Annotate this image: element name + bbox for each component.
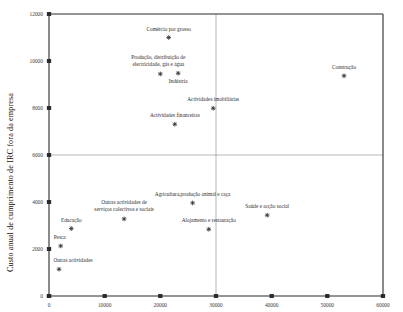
data-point-1 <box>158 72 163 77</box>
x-tick-mark-60000 <box>381 295 384 298</box>
x-tick-mark-10000 <box>103 295 106 298</box>
y-tick-mark-10000 <box>47 60 50 63</box>
data-point-0 <box>166 35 171 40</box>
data-points <box>57 35 347 271</box>
data-point-labels: Comércio por grossoProdução, distribuiçã… <box>53 26 356 264</box>
data-point-11 <box>58 244 63 249</box>
reference-lines <box>49 14 383 296</box>
data-point-label-11: Pesca <box>54 234 67 240</box>
y-tick-label-12000: 12000 <box>30 11 44 17</box>
data-point-label-7: Saúde e acção social <box>245 203 289 209</box>
y-tick-label-4000: 4000 <box>32 199 43 205</box>
x-tick-mark-50000 <box>326 295 329 298</box>
x-tick-mark-0 <box>47 295 50 298</box>
scatter-chart: Custo anual de cumprimento de IRC fora d… <box>0 0 403 312</box>
y-tick-label-8000: 8000 <box>32 105 43 111</box>
y-tick-mark-8000 <box>47 107 50 110</box>
data-point-label-5: Construção <box>332 64 356 70</box>
y-tick-label-6000: 6000 <box>32 152 43 158</box>
data-point-label-8: Outras actividades de <box>101 199 147 205</box>
y-tick-mark-4000 <box>47 201 50 204</box>
data-point-3 <box>211 106 216 111</box>
y-tick-label-2000: 2000 <box>32 246 43 252</box>
data-point-label-12: Outras actividades <box>53 257 92 263</box>
data-point-12 <box>57 267 62 272</box>
x-tick-label-10000: 10000 <box>98 302 112 308</box>
data-point-6 <box>190 201 195 206</box>
data-point-label-10: Educação <box>61 217 82 223</box>
x-tick-mark-30000 <box>214 295 217 298</box>
x-tick-mark-20000 <box>159 295 162 298</box>
data-point-label-3: Actividades imobiliárias <box>187 96 239 102</box>
data-point-7 <box>265 213 270 218</box>
data-point-2 <box>176 71 181 76</box>
data-point-10 <box>69 226 74 231</box>
data-point-5 <box>342 74 347 79</box>
data-point-label-1: Produção, distribuição de <box>131 54 186 60</box>
data-point-label-1: electricidade, gás e água <box>132 61 184 67</box>
data-point-label-2: Indústria <box>169 78 188 84</box>
data-point-label-4: Actividades financeiras <box>150 112 200 118</box>
y-axis-title: Custo anual de cumprimento de IRC fora d… <box>6 93 15 272</box>
y-tick-mark-12000 <box>47 13 50 16</box>
y-tick-label-10000: 10000 <box>30 58 44 64</box>
x-tick-label-30000: 30000 <box>209 302 223 308</box>
y-axis-title-group: Custo anual de cumprimento de IRC fora d… <box>6 93 15 272</box>
x-tick-label-50000: 50000 <box>321 302 335 308</box>
data-point-label-6: Agricultura,produção animal e caça <box>155 191 231 197</box>
y-tick-label-0: 0 <box>40 293 43 299</box>
data-point-9 <box>206 227 211 232</box>
x-tick-label-60000: 60000 <box>376 302 390 308</box>
x-tick-label-40000: 40000 <box>265 302 279 308</box>
data-point-8 <box>122 217 127 222</box>
data-point-label-9: Alojamento e restauração <box>182 217 236 223</box>
chart-canvas: Custo anual de cumprimento de IRC fora d… <box>0 0 403 312</box>
x-tick-label-0: 0 <box>48 302 51 308</box>
x-tick-label-20000: 20000 <box>154 302 168 308</box>
y-tick-mark-6000 <box>47 154 50 157</box>
data-point-label-8: serviços colectivos e sociais <box>94 206 154 212</box>
x-tick-mark-40000 <box>270 295 273 298</box>
data-point-label-0: Comércio por grosso <box>146 26 191 32</box>
axis-ticks: 0200040006000800010000120000100002000030… <box>30 11 391 308</box>
y-tick-mark-2000 <box>47 248 50 251</box>
data-point-4 <box>173 122 178 127</box>
